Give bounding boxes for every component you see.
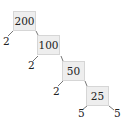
leaf-factor-2: 2 (53, 86, 60, 96)
leaf-factor-2: 2 (3, 36, 10, 46)
node-value: 100 (38, 39, 58, 51)
node-value: 200 (14, 15, 34, 27)
node-25: 25 (86, 86, 109, 106)
leaf-factor-2: 2 (28, 60, 35, 70)
node-100: 100 (37, 35, 60, 55)
node-50: 50 (62, 61, 85, 81)
node-value: 25 (91, 90, 104, 102)
node-value: 50 (67, 65, 80, 77)
leaf-factor-5-right: 5 (114, 108, 121, 117)
leaf-factor-5-left: 5 (78, 108, 85, 117)
node-200: 200 (13, 11, 36, 31)
